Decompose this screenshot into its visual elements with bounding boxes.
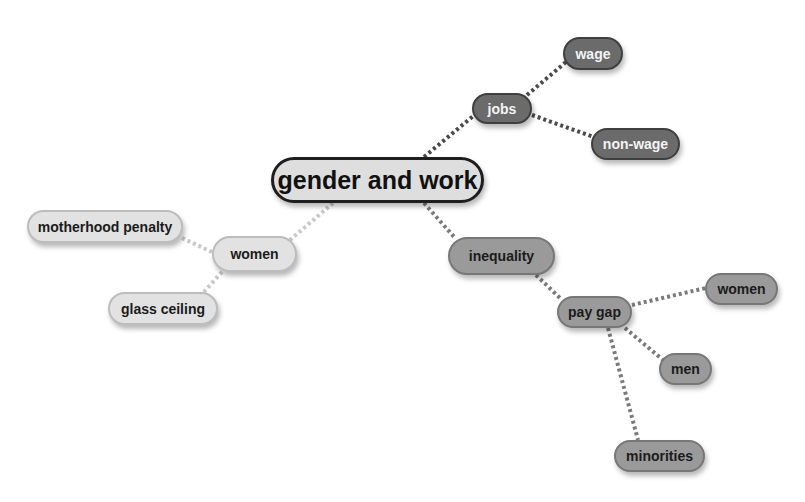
link-jobs-nonwage <box>532 115 594 137</box>
link-paygap-minorities <box>608 328 638 440</box>
mind-map-canvas: gender and work jobs wage non-wage inequ… <box>0 0 805 502</box>
link-inequality-paygap <box>536 275 560 298</box>
node-inequality[interactable]: inequality <box>448 237 555 275</box>
node-non-wage[interactable]: non-wage <box>591 128 680 160</box>
link-paygap-women <box>632 288 706 305</box>
node-minorities[interactable]: minorities <box>614 440 705 472</box>
node-pay-gap-women[interactable]: women <box>705 273 778 305</box>
link-women-glassceiling <box>202 272 222 294</box>
node-wage[interactable]: wage <box>563 37 623 70</box>
node-motherhood-penalty[interactable]: motherhood penalty <box>27 210 183 243</box>
node-pay-gap[interactable]: pay gap <box>557 296 632 328</box>
node-glass-ceiling[interactable]: glass ceiling <box>108 292 218 325</box>
root-node[interactable]: gender and work <box>271 157 484 203</box>
link-women-motherhood <box>182 238 212 252</box>
link-root-jobs <box>424 112 478 157</box>
connector-lines <box>0 0 805 502</box>
link-jobs-wage <box>527 62 566 95</box>
link-root-women <box>290 203 333 240</box>
link-paygap-men <box>625 328 663 360</box>
node-jobs[interactable]: jobs <box>472 93 532 124</box>
node-women[interactable]: women <box>212 236 297 272</box>
node-men[interactable]: men <box>659 353 712 385</box>
link-root-inequality <box>424 203 455 238</box>
